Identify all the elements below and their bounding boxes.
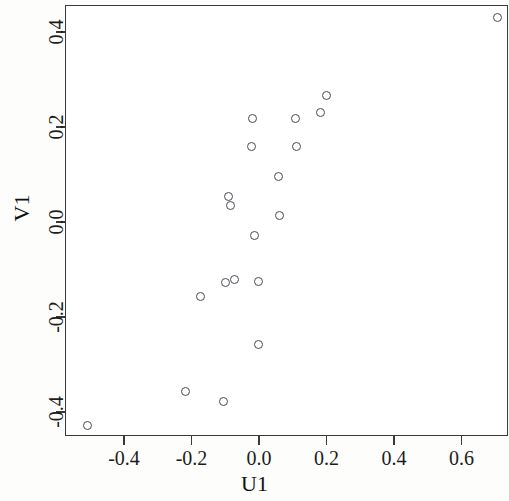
data-point bbox=[254, 340, 263, 349]
x-axis-tick bbox=[461, 436, 463, 445]
data-point bbox=[230, 275, 239, 284]
y-axis-tick-label: -0.2 bbox=[40, 301, 72, 333]
data-point bbox=[291, 114, 300, 123]
data-point bbox=[219, 397, 228, 406]
y-axis-tick-label-text: 0.2 bbox=[40, 111, 72, 143]
data-point bbox=[493, 13, 502, 22]
data-point bbox=[292, 142, 301, 151]
data-point bbox=[83, 421, 92, 430]
x-axis-tick bbox=[326, 436, 328, 445]
data-point bbox=[322, 91, 331, 100]
x-axis-tick-label: 0.0 bbox=[247, 447, 272, 470]
data-point bbox=[226, 201, 235, 210]
x-axis-tick bbox=[191, 436, 193, 445]
x-axis-label: U1 bbox=[0, 471, 509, 497]
x-axis-tick-label: 0.6 bbox=[449, 447, 474, 470]
data-point bbox=[274, 172, 283, 181]
data-point bbox=[196, 292, 205, 301]
plot-area bbox=[66, 6, 507, 435]
data-point bbox=[250, 231, 259, 240]
data-point bbox=[254, 277, 263, 286]
data-point bbox=[275, 211, 284, 220]
y-axis-tick-label: 0.0 bbox=[40, 206, 72, 238]
y-axis-label-text: V1 bbox=[9, 188, 35, 228]
scatter-plot-figure: -0.4-0.20.00.20.40.6 -0.4-0.20.00.20.4 U… bbox=[0, 0, 509, 501]
x-axis-tick-label: -0.4 bbox=[108, 447, 140, 470]
y-axis-tick-label: 0.4 bbox=[40, 16, 72, 48]
data-point bbox=[181, 387, 190, 396]
y-axis-tick-label: 0.2 bbox=[40, 111, 72, 143]
y-axis-tick-label-text: -0.4 bbox=[40, 396, 72, 428]
x-axis-tick bbox=[393, 436, 395, 445]
data-point bbox=[248, 114, 257, 123]
plot-frame bbox=[65, 5, 508, 436]
y-axis-tick-label: -0.4 bbox=[40, 396, 72, 428]
y-axis-tick-label-text: 0.0 bbox=[40, 206, 72, 238]
x-axis-tick-label: -0.2 bbox=[176, 447, 208, 470]
x-axis-tick-label: 0.2 bbox=[314, 447, 339, 470]
y-axis-tick-label-text: 0.4 bbox=[40, 16, 72, 48]
x-axis-tick-label: 0.4 bbox=[382, 447, 407, 470]
data-point bbox=[224, 192, 233, 201]
y-axis-tick-label-text: -0.2 bbox=[40, 301, 72, 333]
x-axis-tick bbox=[258, 436, 260, 445]
x-axis-tick bbox=[123, 436, 125, 445]
data-point bbox=[247, 142, 256, 151]
y-axis-label: V1 bbox=[2, 195, 42, 221]
data-point bbox=[316, 108, 325, 117]
